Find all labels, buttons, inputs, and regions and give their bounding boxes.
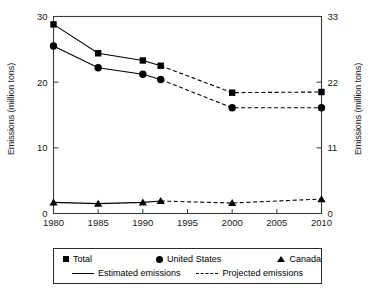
y-tick-label-left: 0 <box>42 208 47 219</box>
legend-item-estimated: Estimated emissions <box>72 268 181 278</box>
data-point-square <box>95 50 101 56</box>
data-point-triangle <box>317 195 325 202</box>
legend-row-linestyles: Estimated emissions Projected emissions <box>54 266 321 280</box>
data-point-circle <box>318 104 325 111</box>
plot-area: 1980198519901995200020052010010203001122… <box>0 0 372 248</box>
legend-row-markers: Total United States Canada <box>54 252 321 266</box>
square-marker-icon <box>63 256 69 262</box>
x-tick-label: 2000 <box>222 217 243 228</box>
solid-line-icon <box>72 273 94 274</box>
y-tick-label-left: 20 <box>37 77 48 88</box>
chart-legend: Total United States Canada Estimated emi… <box>53 248 322 284</box>
plot-frame <box>54 17 322 214</box>
series-line-projected <box>161 199 322 203</box>
legend-item-united-states: United States <box>156 254 221 264</box>
legend-label-total: Total <box>73 254 92 264</box>
data-point-circle <box>228 104 235 111</box>
x-tick-label: 1990 <box>132 217 153 228</box>
legend-item-total: Total <box>63 254 92 264</box>
x-tick-label: 1995 <box>177 217 198 228</box>
circle-marker-icon <box>156 256 163 263</box>
legend-label-projected: Projected emissions <box>222 268 303 278</box>
y-tick-label-right: 22 <box>328 77 339 88</box>
series-line-projected <box>161 66 322 93</box>
emissions-line-chart: Emissions (million tons) Emissions (mill… <box>0 0 372 300</box>
y-tick-label-left: 10 <box>37 142 48 153</box>
y-tick-label-right: 33 <box>328 11 339 22</box>
legend-item-canada: Canada <box>277 254 321 264</box>
x-tick-label: 2005 <box>266 217 287 228</box>
data-point-square <box>229 89 235 95</box>
x-tick-label: 1985 <box>88 217 109 228</box>
data-point-square <box>140 57 146 63</box>
y-tick-label-right: 0 <box>328 208 333 219</box>
data-point-circle <box>94 64 101 71</box>
data-point-circle <box>157 76 164 83</box>
data-point-circle <box>50 42 57 49</box>
data-point-circle <box>139 71 146 78</box>
data-point-square <box>318 89 324 95</box>
data-point-square <box>158 63 164 69</box>
series-line-projected <box>161 80 322 108</box>
legend-label-canada: Canada <box>289 254 321 264</box>
triangle-marker-icon <box>277 256 285 262</box>
legend-label-united-states: United States <box>167 254 221 264</box>
y-tick-label-left: 30 <box>37 11 48 22</box>
legend-item-projected: Projected emissions <box>196 268 303 278</box>
y-tick-label-right: 11 <box>328 142 338 153</box>
legend-label-estimated: Estimated emissions <box>98 268 181 278</box>
dashed-line-icon <box>196 273 218 274</box>
data-point-square <box>50 21 56 27</box>
